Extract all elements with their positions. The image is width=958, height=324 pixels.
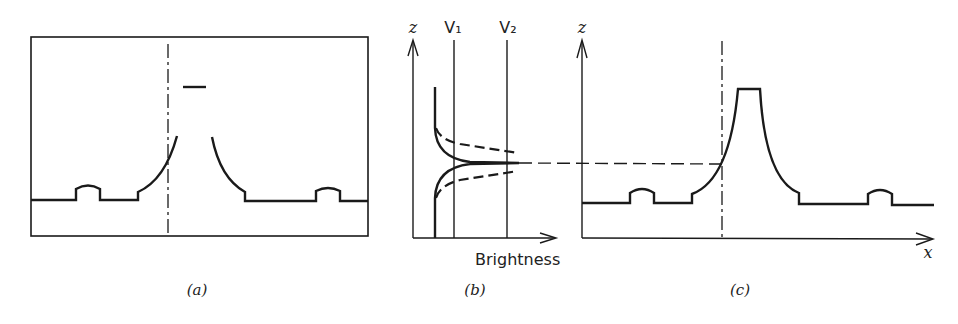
panel-c-z-label: z: [577, 18, 587, 37]
panel-c: z x (c): [577, 18, 934, 299]
caption-b: (b): [464, 281, 485, 299]
panel-a: (a): [31, 37, 368, 299]
projection-dashed-line: [519, 163, 722, 164]
panel-a-profile-right: [212, 137, 368, 201]
panel-c-x-axis: [582, 238, 932, 239]
brightness-curve-dashed-upper: [436, 128, 518, 153]
figure-canvas: (a) z Brightness V₁ V₂ (b) z x: [0, 0, 958, 324]
threshold-v1-label: V₁: [444, 18, 461, 37]
caption-a: (a): [187, 281, 208, 299]
height-profile: [582, 89, 934, 205]
panel-b-brightness-label: Brightness: [475, 250, 560, 269]
panel-b-z-label: z: [408, 18, 418, 37]
panel-c-x-label: x: [923, 243, 932, 262]
brightness-curve-dashed-lower: [436, 171, 518, 198]
panel-a-frame: [31, 37, 368, 236]
caption-c: (c): [730, 281, 750, 299]
panel-a-profile-left: [31, 136, 177, 200]
panel-b: z Brightness V₁ V₂ (b): [408, 18, 722, 299]
threshold-v2-label: V₂: [499, 18, 516, 37]
